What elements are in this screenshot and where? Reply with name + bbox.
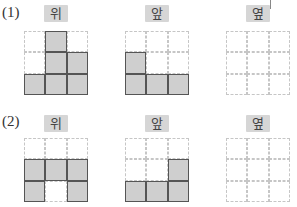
empty-square[interactable]: [269, 74, 290, 95]
filled-square: [125, 52, 146, 73]
empty-square: [125, 159, 146, 180]
p1-side-view-grid[interactable]: [226, 31, 290, 95]
empty-square: [125, 31, 146, 52]
filled-square: [24, 159, 45, 180]
filled-square: [45, 74, 66, 95]
empty-square[interactable]: [226, 31, 247, 52]
filled-square: [67, 181, 88, 202]
empty-square[interactable]: [269, 138, 290, 159]
empty-square[interactable]: [269, 159, 290, 180]
filled-square: [168, 74, 189, 95]
empty-square: [146, 31, 167, 52]
empty-square[interactable]: [247, 74, 268, 95]
p1-front-view-grid: [125, 31, 189, 95]
filled-square: [125, 74, 146, 95]
filled-square: [45, 31, 66, 52]
empty-square: [24, 52, 45, 73]
empty-square: [168, 52, 189, 73]
empty-square: [146, 159, 167, 180]
filled-square: [67, 52, 88, 73]
empty-square[interactable]: [226, 138, 247, 159]
empty-square[interactable]: [269, 52, 290, 73]
empty-square: [67, 31, 88, 52]
filled-square: [45, 52, 66, 73]
empty-square: [168, 31, 189, 52]
problem-2-number: (2): [2, 113, 20, 130]
filled-square: [125, 181, 146, 202]
empty-square[interactable]: [226, 181, 247, 202]
p1-top-view-grid: [24, 31, 88, 95]
filled-square: [146, 181, 167, 202]
empty-square[interactable]: [247, 52, 268, 73]
filled-square: [168, 159, 189, 180]
filled-square: [146, 74, 167, 95]
empty-square[interactable]: [247, 181, 268, 202]
empty-square: [146, 138, 167, 159]
empty-square: [125, 138, 146, 159]
filled-square: [24, 74, 45, 95]
empty-square: [24, 31, 45, 52]
empty-square: [45, 138, 66, 159]
empty-square: [67, 138, 88, 159]
p1-front-view-label: 앞: [145, 5, 169, 22]
filled-square: [67, 159, 88, 180]
filled-square: [67, 74, 88, 95]
p2-top-view-label: 위: [44, 115, 68, 132]
problem-1-number: (1): [2, 4, 20, 21]
edge-tick-mark: [270, 0, 271, 9]
p2-side-view-label: 옆: [246, 115, 270, 132]
empty-square[interactable]: [226, 52, 247, 73]
empty-square: [45, 181, 66, 202]
empty-square[interactable]: [247, 31, 268, 52]
empty-square[interactable]: [247, 138, 268, 159]
filled-square: [24, 181, 45, 202]
empty-square[interactable]: [226, 159, 247, 180]
p2-front-view-grid: [125, 138, 189, 202]
empty-square[interactable]: [269, 181, 290, 202]
p1-side-view-label: 옆: [246, 5, 270, 22]
p2-top-view-grid: [24, 138, 88, 202]
empty-square: [146, 52, 167, 73]
empty-square[interactable]: [226, 74, 247, 95]
filled-square: [45, 159, 66, 180]
empty-square: [24, 138, 45, 159]
p2-front-view-label: 앞: [145, 115, 169, 132]
empty-square[interactable]: [247, 159, 268, 180]
empty-square[interactable]: [269, 31, 290, 52]
empty-square: [168, 138, 189, 159]
p1-top-view-label: 위: [44, 5, 68, 22]
p2-side-view-grid[interactable]: [226, 138, 290, 202]
filled-square: [168, 181, 189, 202]
